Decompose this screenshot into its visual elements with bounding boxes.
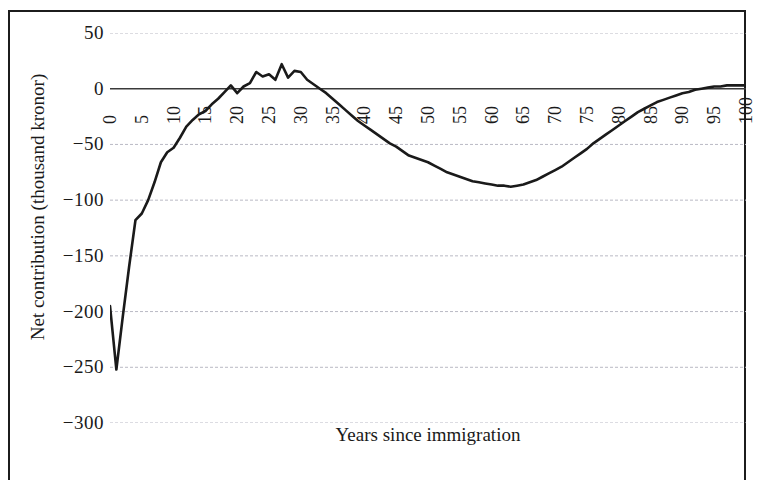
x-tick-label: 20 <box>228 78 246 124</box>
x-tick-label: 30 <box>292 78 310 124</box>
x-tick-label: 80 <box>610 78 628 124</box>
x-tick-label: 35 <box>324 78 342 124</box>
x-tick-label: 50 <box>419 78 437 124</box>
x-tick-label: 0 <box>101 78 119 124</box>
x-tick-label: 90 <box>673 78 691 124</box>
y-tick-label: 0 <box>42 79 104 98</box>
y-tick-label: −100 <box>42 190 104 209</box>
x-tick-label: 25 <box>260 78 278 124</box>
y-tick-label: −250 <box>42 357 104 376</box>
x-tick-label: 95 <box>705 78 723 124</box>
x-tick-label: 5 <box>133 78 151 124</box>
x-tick-label: 45 <box>387 78 405 124</box>
y-axis-tick-labels: 500−50−100−150−200−250−300 <box>38 0 104 471</box>
y-tick-label: −300 <box>42 413 104 432</box>
x-tick-label: 75 <box>578 78 596 124</box>
x-tick-label: 55 <box>451 78 469 124</box>
y-tick-label: 50 <box>42 23 104 42</box>
x-axis-tick-labels: 0510152025303540455055606570758085909510… <box>110 92 746 144</box>
y-tick-label: −200 <box>42 302 104 321</box>
x-tick-label: 85 <box>642 78 660 124</box>
x-tick-label: 70 <box>546 78 564 124</box>
y-tick-label: −50 <box>42 134 104 153</box>
x-tick-label: 40 <box>355 78 373 124</box>
x-axis-title: Years since immigration <box>110 424 746 446</box>
x-tick-label: 65 <box>514 78 532 124</box>
x-tick-label: 60 <box>483 78 501 124</box>
y-tick-label: −150 <box>42 246 104 265</box>
x-tick-label: 15 <box>196 78 214 124</box>
x-tick-label: 10 <box>165 78 183 124</box>
x-tick-label: 100 <box>737 78 755 124</box>
